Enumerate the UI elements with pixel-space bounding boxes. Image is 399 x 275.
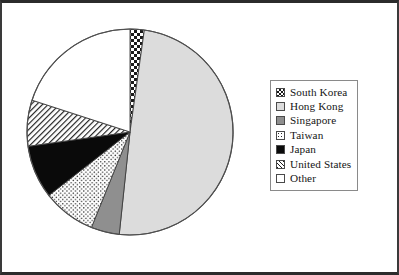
chart-legend: South KoreaHong KongSingaporeTaiwanJapan… xyxy=(270,80,358,191)
legend-item: United States xyxy=(276,157,351,171)
legend-swatch-singapore xyxy=(276,116,285,125)
legend-item-label: South Korea xyxy=(290,87,347,98)
legend-swatch-south-korea xyxy=(276,88,285,97)
legend-item-label: Other xyxy=(290,173,316,184)
legend-item: Singapore xyxy=(276,114,351,128)
legend-swatch-japan xyxy=(276,145,285,154)
legend-item: Taiwan xyxy=(276,128,351,142)
legend-item-label: United States xyxy=(290,159,351,170)
legend-item: South Korea xyxy=(276,85,351,99)
legend-item-label: Taiwan xyxy=(290,130,323,141)
legend-item-label: Hong Kong xyxy=(290,101,343,112)
legend-swatch-other xyxy=(276,174,285,183)
legend-swatch-taiwan xyxy=(276,131,285,140)
legend-item-label: Japan xyxy=(290,144,316,155)
legend-item: Other xyxy=(276,171,351,185)
legend-swatch-hong-kong xyxy=(276,102,285,111)
legend-item: Hong Kong xyxy=(276,99,351,113)
legend-swatch-united-states xyxy=(276,160,285,169)
pie-wedges xyxy=(27,29,233,235)
pie-chart xyxy=(26,24,242,240)
figure-frame: South KoreaHong KongSingaporeTaiwanJapan… xyxy=(0,0,399,275)
plot-area: South KoreaHong KongSingaporeTaiwanJapan… xyxy=(2,3,397,272)
legend-item: Japan xyxy=(276,143,351,157)
legend-item-label: Singapore xyxy=(290,115,336,126)
